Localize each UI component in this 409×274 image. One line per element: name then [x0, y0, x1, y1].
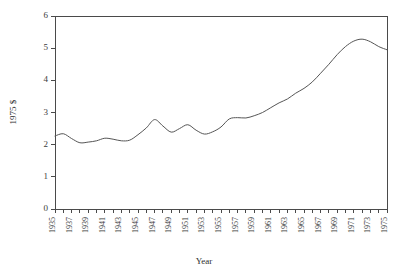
x-tick-label: 1951: [181, 217, 190, 233]
x-tick-label: 1963: [280, 217, 289, 233]
plot-frame: [55, 16, 387, 209]
x-tick-label: 1937: [65, 217, 74, 233]
x-tick-label: 1965: [297, 217, 306, 233]
x-tick-label: 1959: [247, 217, 256, 233]
x-tick-label: 1967: [314, 217, 323, 233]
x-tick-label: 1973: [363, 217, 372, 233]
chart-ticks: [51, 16, 387, 213]
x-tick-label: 1943: [114, 217, 123, 233]
x-tick-label: 1945: [131, 217, 140, 233]
x-tick-label: 1975: [380, 217, 389, 233]
x-tick-label: 1969: [330, 217, 339, 233]
x-tick-label: 1949: [164, 217, 173, 233]
x-tick-label: 1971: [347, 217, 356, 233]
y-tick-label: 2: [44, 139, 49, 149]
y-tick-label: 0: [44, 203, 49, 213]
y-tick-label: 6: [44, 10, 49, 20]
x-tick-label: 1935: [48, 217, 57, 233]
chart-axes: [55, 16, 387, 209]
y-tick-label: 3: [44, 107, 49, 117]
data-series-line: [55, 39, 387, 143]
y-axis-title: 1975 $: [8, 99, 18, 124]
x-tick-label: 1961: [264, 217, 273, 233]
line-chart: 0123456 19351937193919411943194519471949…: [0, 0, 409, 274]
x-tick-label: 1955: [214, 217, 223, 233]
chart-container: 0123456 19351937193919411943194519471949…: [0, 0, 409, 274]
y-tick-label: 5: [44, 42, 49, 52]
y-tick-label: 1: [44, 171, 49, 181]
x-tick-label: 1947: [148, 217, 157, 233]
y-axis-tick-labels: 0123456: [44, 10, 49, 213]
x-tick-label: 1953: [197, 217, 206, 233]
x-tick-label: 1939: [81, 217, 90, 233]
x-tick-label: 1941: [98, 217, 107, 233]
x-axis-tick-labels: 1935193719391941194319451947194919511953…: [48, 217, 389, 233]
x-tick-label: 1957: [231, 217, 240, 233]
y-tick-label: 4: [44, 74, 49, 84]
x-axis-title: Year: [196, 256, 213, 266]
